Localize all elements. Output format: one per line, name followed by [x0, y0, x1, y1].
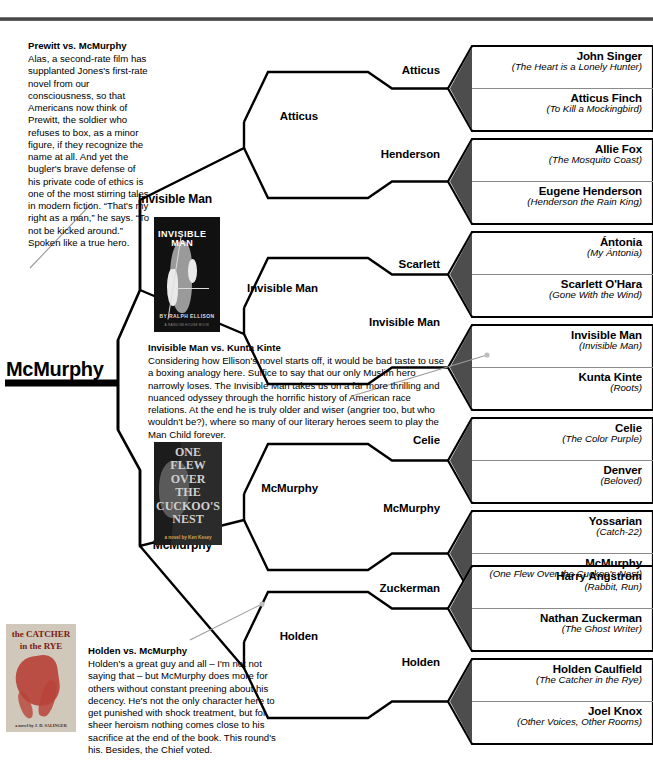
leaf-book: (Roots) — [472, 383, 642, 393]
champion-label[interactable]: McMurphy — [6, 358, 104, 381]
leaf-entry[interactable]: Harry Angstrom (Rabbit, Run) — [472, 570, 648, 592]
leaf-entry[interactable]: Invisible Man (Invisible Man) — [472, 329, 648, 351]
leaf-entry[interactable]: Kunta Kinte (Roots) — [472, 371, 648, 393]
leaf-book: (The Ghost Writer) — [472, 624, 642, 634]
essay-heading: Holden vs. McMurphy — [88, 645, 286, 657]
book-cover-cuckoos-nest: ONE FLEW OVER THE CUCKOO'S NEST a novel … — [154, 442, 222, 545]
round1-winner-label[interactable]: Holden — [330, 656, 440, 668]
leaf-entry[interactable]: Atticus Finch (To Kill a Mockingbird) — [472, 92, 648, 114]
essay-prewitt-vs-mcmurphy: Prewitt vs. McMurphy Alas, a second-rate… — [28, 40, 150, 249]
cover-author: a novel by Ken Kesey — [154, 535, 222, 540]
essay-heading: Invisible Man vs. Kunta Kinte — [148, 342, 448, 354]
book-cover-catcher-in-the-rye: the CATCHER in the RYE a novel by J. D. … — [6, 624, 76, 732]
cover-title-line1: the CATCHER — [6, 629, 76, 639]
leaf-book: (The Catcher in the Rye) — [472, 675, 642, 685]
leaf-book: (Gone With the Wind) — [472, 290, 642, 300]
round1-winner-label[interactable]: McMurphy — [330, 502, 440, 514]
round1-winner-label[interactable]: Invisible Man — [320, 316, 440, 328]
cover-title-line: NEST — [154, 512, 222, 527]
round1-winner-label[interactable]: Zuckerman — [330, 582, 440, 594]
essay-body: Alas, a second-rate film has supplanted … — [28, 53, 150, 249]
leaf-entry[interactable]: Nathan Zuckerman (The Ghost Writer) — [472, 612, 648, 634]
leaf-entry[interactable]: Holden Caulfield (The Catcher in the Rye… — [472, 663, 648, 685]
cover-title-line2: MAN — [171, 238, 193, 248]
leaf-book: (To Kill a Mockingbird) — [472, 104, 642, 114]
leaf-entry[interactable]: Joel Knox (Other Voices, Other Rooms) — [472, 705, 648, 727]
leaf-book: (Catch-22) — [472, 527, 642, 537]
book-cover-invisible-man: INVISIBLE MAN BY RALPH ELLISON A RANDOM … — [154, 215, 220, 332]
leaf-entry[interactable]: Ántonia (My Ántonia) — [472, 236, 648, 258]
leaf-book: (Henderson the Rain King) — [472, 197, 642, 207]
leaf-entry[interactable]: Celie (The Color Purple) — [472, 422, 648, 444]
essay-invisible-man-vs-kunta-kinte: Invisible Man vs. Kunta Kinte Considerin… — [148, 342, 448, 441]
leaf-entry[interactable]: Allie Fox (The Mosquito Coast) — [472, 143, 648, 165]
essay-holden-vs-mcmurphy: Holden vs. McMurphy Holden's a great guy… — [88, 645, 286, 756]
leaf-book: (The Color Purple) — [472, 434, 642, 444]
leaf-entry[interactable]: Eugene Henderson (Henderson the Rain Kin… — [472, 185, 648, 207]
cover-author: BY RALPH ELLISON — [154, 313, 220, 319]
leaf-book: (Other Voices, Other Rooms) — [472, 717, 642, 727]
round1-winner-label[interactable]: Atticus — [330, 64, 440, 76]
leaf-entry[interactable]: Scarlett O'Hara (Gone With the Wind) — [472, 278, 648, 300]
leaf-book: (Rabbit, Run) — [472, 582, 642, 592]
leaf-book: (The Mosquito Coast) — [472, 155, 642, 165]
cover-imprint: A RANDOM HOUSE BOOK — [154, 323, 220, 327]
leaf-entry[interactable]: Denver (Beloved) — [472, 464, 648, 486]
leaf-book: (The Heart is a Lonely Hunter) — [472, 62, 642, 72]
leaf-entry[interactable]: Yossarian (Catch-22) — [472, 515, 648, 537]
round1-winner-label[interactable]: Scarlett — [330, 258, 440, 270]
cover-title-line2: in the RYE — [6, 641, 76, 651]
essay-heading: Prewitt vs. McMurphy — [28, 40, 150, 52]
round2-winner-label[interactable]: Atticus — [200, 110, 318, 122]
cover-author: a novel by J. D. SALINGER — [6, 723, 76, 728]
essay-body: Considering how Ellison's novel starts o… — [148, 355, 448, 441]
leaf-entry[interactable]: John Singer (The Heart is a Lonely Hunte… — [472, 50, 648, 72]
bracket-page: John Singer (The Heart is a Lonely Hunte… — [0, 0, 653, 769]
leaf-book: (Invisible Man) — [472, 341, 642, 351]
leaf-book: (My Ántonia) — [472, 248, 642, 258]
essay-body: Holden's a great guy and all – I'm not n… — [88, 658, 286, 756]
round2-winner-label[interactable]: Holden — [200, 630, 318, 642]
leaf-book: (Beloved) — [472, 476, 642, 486]
round1-winner-label[interactable]: Henderson — [330, 148, 440, 160]
